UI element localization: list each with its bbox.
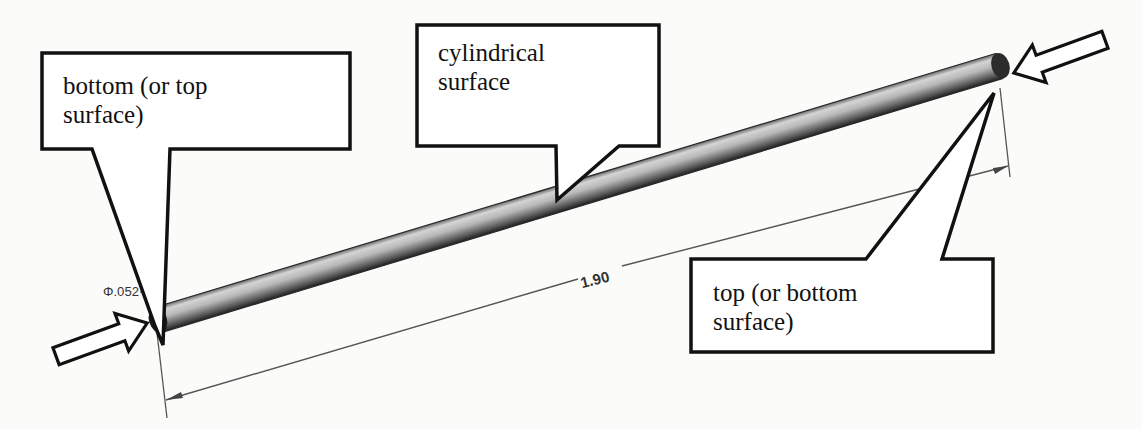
diameter-label: Φ.052 (103, 285, 139, 299)
callout-bottom-label: bottom (or top surface) (63, 71, 207, 129)
diagram-canvas: Φ.052 1.90 bottom (or top surface) cylin… (0, 0, 1142, 429)
left-arrow-icon (49, 304, 154, 375)
callout-cylindrical-label: cylindrical surface (438, 38, 545, 96)
length-label: 1.90 (579, 268, 611, 292)
rod-drawing: Φ.052 1.90 (0, 0, 1142, 429)
callout-top-label: top (or bottom surface) (713, 278, 857, 336)
right-arrow-icon (1007, 21, 1112, 92)
